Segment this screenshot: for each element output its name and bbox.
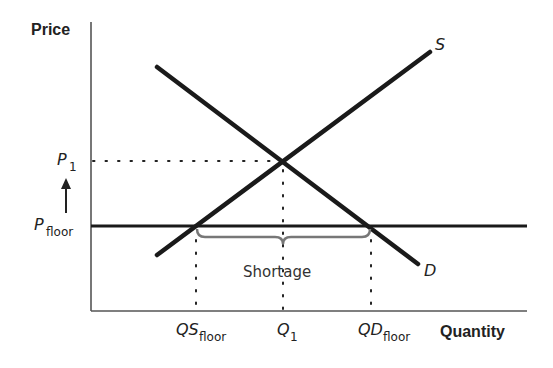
p1-label: P [57,150,67,169]
shortage-label: Shortage [243,263,311,281]
p1-sub: 1 [69,160,77,174]
q1-sub: 1 [290,330,298,344]
arrow-head [61,178,71,189]
price-axis-label: Price [31,21,70,38]
qd-floor-sub: floor [383,330,410,344]
shortage-brace [197,229,370,244]
quantity-axis-label: Quantity [440,323,505,340]
qd-floor-label: QD [358,320,383,339]
demand-label: D [424,261,436,280]
supply-label: S [435,35,445,54]
price-floor-diagram: Price Quantity S D P 1 P floor QS floor … [0,0,553,368]
pfloor-sub: floor [46,225,73,239]
qs-floor-label: QS [176,320,199,339]
qs-floor-sub: floor [199,330,226,344]
demand-curve [157,67,418,264]
q1-label: Q [277,320,290,339]
pfloor-label: P [34,215,44,234]
